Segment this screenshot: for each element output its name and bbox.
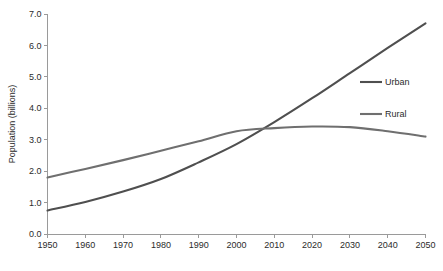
x-tick-label: 1970 bbox=[113, 240, 133, 250]
y-tick-label: 5.0 bbox=[29, 72, 42, 82]
x-tick-label: 1980 bbox=[151, 240, 171, 250]
chart-container: 0.01.02.03.04.05.06.07.0 195019601970198… bbox=[0, 0, 443, 271]
legend-label-urban: Urban bbox=[385, 77, 410, 87]
y-tick-label: 1.0 bbox=[29, 198, 42, 208]
y-tick-label: 3.0 bbox=[29, 135, 42, 145]
y-axis-ticks: 0.01.02.03.04.05.06.07.0 bbox=[29, 9, 48, 239]
y-tick-label: 6.0 bbox=[29, 41, 42, 51]
y-tick-label: 2.0 bbox=[29, 166, 42, 176]
series-line-urban bbox=[48, 23, 426, 210]
legend-label-rural: Rural bbox=[385, 109, 407, 119]
x-tick-label: 2010 bbox=[264, 240, 284, 250]
x-axis-ticks: 1950196019701980199020002010202020302040… bbox=[37, 234, 435, 250]
y-axis-title: Population (billions) bbox=[7, 85, 17, 164]
axes-group bbox=[48, 14, 426, 235]
chart-legend: UrbanRural bbox=[360, 77, 410, 119]
y-tick-label: 0.0 bbox=[29, 229, 42, 239]
series-line-rural bbox=[48, 126, 426, 177]
x-tick-label: 1950 bbox=[37, 240, 57, 250]
x-tick-label: 1990 bbox=[189, 240, 209, 250]
line-chart: 0.01.02.03.04.05.06.07.0 195019601970198… bbox=[0, 0, 443, 271]
x-tick-label: 2040 bbox=[378, 240, 398, 250]
y-tick-label: 4.0 bbox=[29, 103, 42, 113]
x-tick-label: 2020 bbox=[302, 240, 322, 250]
x-tick-label: 2000 bbox=[226, 240, 246, 250]
x-tick-label: 2030 bbox=[340, 240, 360, 250]
x-tick-label: 2050 bbox=[415, 240, 435, 250]
y-tick-label: 7.0 bbox=[29, 9, 42, 19]
series-group bbox=[48, 23, 426, 210]
x-tick-label: 1960 bbox=[75, 240, 95, 250]
